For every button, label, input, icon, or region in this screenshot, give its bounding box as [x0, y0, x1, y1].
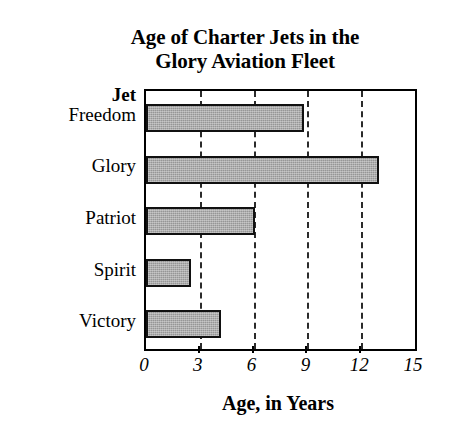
value-tick-mark-6: [252, 346, 254, 353]
chart-title: Age of Charter Jets in the Glory Aviatio…: [60, 26, 430, 73]
bar-victory[interactable]: [146, 310, 221, 338]
category-label-freedom: Freedom: [8, 105, 136, 124]
bar-spirit[interactable]: [146, 259, 191, 287]
category-label-glory: Glory: [8, 156, 136, 175]
category-label-patriot: Patriot: [8, 208, 136, 227]
value-tick-label-6: 6: [247, 354, 257, 376]
bar-glory[interactable]: [146, 156, 379, 184]
value-tick-label-3: 3: [193, 354, 203, 376]
value-tick-mark-9: [305, 346, 307, 353]
value-tick-label-12: 12: [350, 354, 369, 376]
category-axis-tick-labels: Freedom Glory Patriot Spirit Victory: [8, 89, 136, 347]
value-axis-title: Age, in Years: [120, 392, 436, 415]
value-tick-label-15: 15: [404, 354, 423, 376]
value-axis-tick-labels: 03691215: [144, 354, 413, 380]
chart-title-line-1: Age of Charter Jets in the: [60, 26, 430, 50]
bar-patriot[interactable]: [146, 207, 255, 235]
category-label-spirit: Spirit: [8, 260, 136, 279]
chart-title-line-2: Glory Aviation Fleet: [60, 50, 430, 74]
bars-layer: [146, 91, 415, 349]
value-tick-label-0: 0: [139, 354, 149, 376]
bar-freedom[interactable]: [146, 104, 304, 132]
value-tick-mark-3: [198, 346, 200, 353]
plot-area: [144, 89, 417, 351]
value-tick-mark-12: [359, 346, 361, 353]
category-label-victory: Victory: [8, 311, 136, 330]
value-tick-label-9: 9: [301, 354, 311, 376]
bar-chart-figure: Age of Charter Jets in the Glory Aviatio…: [0, 0, 474, 440]
